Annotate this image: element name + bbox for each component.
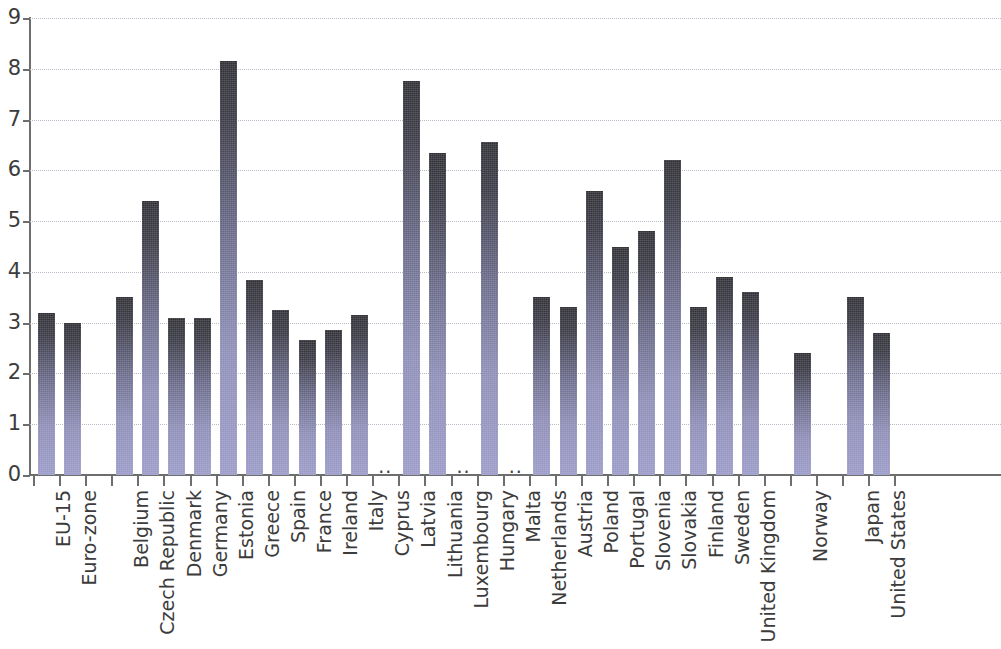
y-tick-label: 6 — [0, 159, 21, 180]
x-axis-label: Finland — [707, 490, 726, 558]
x-tick-mark — [190, 476, 192, 486]
x-tick-mark — [790, 476, 792, 486]
x-tick-mark — [842, 476, 844, 486]
bar — [847, 297, 864, 475]
x-axis-label: Slovenia — [654, 490, 673, 571]
x-axis-label: Cyprus — [393, 490, 412, 556]
x-tick-mark — [85, 476, 87, 486]
missing-data-marker: .. — [377, 459, 394, 473]
x-axis-label: United Kingdom — [759, 490, 778, 643]
bar — [325, 330, 342, 475]
bar — [533, 297, 550, 475]
y-tick-mark — [23, 424, 30, 426]
bar — [403, 81, 420, 475]
x-axis-label: Czech Republic — [158, 490, 177, 635]
x-tick-mark — [33, 476, 35, 486]
x-tick-mark — [503, 476, 505, 486]
x-tick-mark — [294, 476, 296, 486]
bar — [664, 160, 681, 475]
x-axis-label: Malta — [524, 490, 543, 542]
y-tick-label: 3 — [0, 312, 21, 333]
x-tick-mark — [137, 476, 139, 486]
x-axis-label: Japan — [863, 490, 882, 543]
x-tick-mark — [659, 476, 661, 486]
bar — [716, 277, 733, 475]
bar — [742, 292, 759, 475]
plot-area: ...... — [30, 18, 1001, 475]
bar — [560, 307, 577, 475]
x-axis-label: Portugal — [628, 490, 647, 569]
x-tick-mark — [868, 476, 870, 486]
bar — [612, 247, 629, 476]
x-axis-label: Denmark — [185, 490, 204, 577]
x-axis-label: Lithuania — [446, 490, 465, 578]
missing-data-marker: .. — [455, 459, 472, 473]
x-tick-mark — [59, 476, 61, 486]
y-tick-mark — [23, 18, 30, 20]
x-axis-label: Germany — [211, 490, 230, 577]
bar — [64, 323, 81, 475]
x-axis-label: Netherlands — [550, 490, 569, 606]
x-tick-mark — [111, 476, 113, 486]
bar — [142, 201, 159, 475]
y-tick-label: 5 — [0, 210, 21, 231]
y-tick-mark — [23, 221, 30, 223]
y-tick-label: 9 — [0, 7, 21, 28]
x-tick-mark — [685, 476, 687, 486]
bar — [873, 333, 890, 475]
bar — [481, 142, 498, 475]
bar — [38, 313, 55, 475]
bar — [220, 61, 237, 475]
x-tick-mark — [816, 476, 818, 486]
x-tick-mark — [242, 476, 244, 486]
x-tick-mark — [712, 476, 714, 486]
y-tick-label: 8 — [0, 58, 21, 79]
x-axis-label: Belgium — [132, 490, 151, 568]
x-axis-label: Euro-zone — [80, 490, 99, 586]
bar — [586, 191, 603, 475]
x-axis-label: Slovakia — [680, 490, 699, 570]
bar — [690, 307, 707, 475]
y-tick-mark — [23, 373, 30, 375]
x-tick-mark — [451, 476, 453, 486]
x-tick-mark — [764, 476, 766, 486]
x-axis-label: Poland — [602, 490, 621, 553]
bar — [794, 353, 811, 475]
x-axis-label: Ireland — [341, 490, 360, 556]
x-axis-label: Estonia — [237, 490, 256, 560]
bar — [351, 315, 368, 475]
bar — [638, 231, 655, 475]
y-tick-mark — [23, 323, 30, 325]
y-tick-label: 4 — [0, 261, 21, 282]
bar-chart: 0123456789 ...... EU-15Euro-zoneBelgiumC… — [0, 0, 1001, 649]
x-axis-label: United States — [889, 490, 908, 619]
x-tick-mark — [268, 476, 270, 486]
x-tick-mark — [477, 476, 479, 486]
bar — [272, 310, 289, 475]
x-axis-label: France — [315, 490, 334, 553]
y-tick-label: 2 — [0, 362, 21, 383]
x-axis-label: EU-15 — [54, 490, 73, 547]
x-axis-label: Austria — [576, 490, 595, 557]
x-tick-mark — [372, 476, 374, 486]
y-tick-mark — [23, 475, 30, 477]
x-axis-label: Norway — [811, 490, 830, 562]
x-axis-label: Hungary — [498, 490, 517, 571]
bar — [299, 340, 316, 475]
x-tick-mark — [607, 476, 609, 486]
x-axis-label: Spain — [289, 490, 308, 543]
x-tick-mark — [894, 476, 896, 486]
x-tick-mark — [529, 476, 531, 486]
x-tick-mark — [633, 476, 635, 486]
bar — [429, 153, 446, 475]
x-tick-mark — [320, 476, 322, 486]
bar — [116, 297, 133, 475]
bar — [194, 318, 211, 475]
y-tick-label: 1 — [0, 413, 21, 434]
x-axis-label: Latvia — [419, 490, 438, 548]
x-tick-mark — [346, 476, 348, 486]
y-tick-label: 0 — [0, 464, 21, 485]
x-tick-mark — [581, 476, 583, 486]
y-tick-label: 7 — [0, 109, 21, 130]
x-tick-mark — [555, 476, 557, 486]
